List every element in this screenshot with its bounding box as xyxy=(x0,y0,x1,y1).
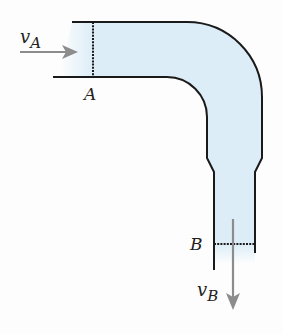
fluid-region xyxy=(93,22,262,244)
pipe-flow-diagram: vA A B vB xyxy=(0,0,283,334)
velocity-a-label: vA xyxy=(20,26,41,52)
section-b-label: B xyxy=(189,234,203,254)
diagram-canvas: vA A B vB xyxy=(0,0,283,334)
velocity-b-label: vB xyxy=(197,279,218,305)
fluid-outlet-fade xyxy=(214,244,255,264)
section-a-label: A xyxy=(82,84,96,104)
